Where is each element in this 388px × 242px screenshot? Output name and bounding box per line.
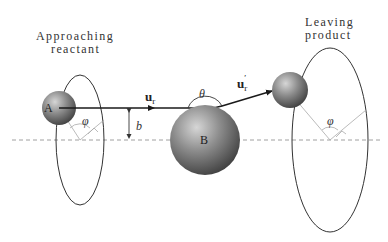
- leaving-product-title-line2: product: [305, 28, 351, 42]
- leaving-product-title-line1: Leaving: [305, 15, 354, 29]
- collision-diagram: A θ B b ur ur′ φ φ Approaching reactant …: [0, 0, 388, 242]
- vector-ur-prime-label: ur′: [237, 73, 247, 93]
- approaching-reactant-title-line1: Approaching: [36, 29, 114, 43]
- impact-parameter-label: b: [136, 119, 142, 133]
- atom-b-label: B: [200, 133, 208, 147]
- vector-ur-label: ur: [145, 89, 155, 106]
- theta-label: θ: [199, 87, 205, 101]
- product-sphere: [272, 72, 308, 108]
- phi-left-label: φ: [82, 114, 89, 128]
- approaching-reactant-title-line2: reactant: [51, 42, 100, 56]
- atom-a-label: A: [44, 101, 53, 115]
- curved-path-near-b: [173, 91, 272, 108]
- phi-right-label: φ: [327, 114, 334, 128]
